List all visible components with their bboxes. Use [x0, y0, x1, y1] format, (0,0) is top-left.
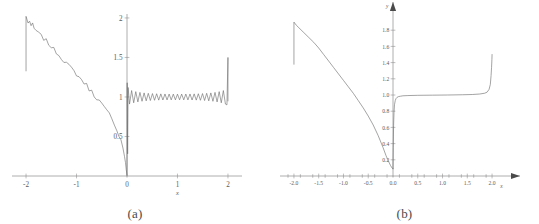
x-tick-label: 0.5 [414, 180, 421, 186]
x-tick-label: 1 [176, 181, 180, 189]
plot-area-a: -2-10120.511.52x [0, 0, 270, 196]
panel-b: -2.0-1.5-1.0-0.50.00.51.01.52.00.20.40.6… [270, 0, 539, 224]
y-axis-arrow-icon [390, 2, 396, 11]
y-tick-label: 1.2 [382, 76, 389, 82]
curve-left-branch [294, 22, 393, 169]
curve-left-branch [26, 16, 127, 175]
x-tick-label: -1 [74, 181, 80, 189]
y-tick-label: 1.5 [114, 54, 123, 62]
y-tick-label: 1 [119, 94, 123, 102]
x-tick-label: -0.5 [364, 180, 373, 186]
chart-b: -2.0-1.5-1.0-0.50.00.51.01.52.00.20.40.6… [270, 0, 539, 196]
y-tick-label: 0.2 [382, 157, 389, 163]
y-tick-label: 0.4 [382, 141, 389, 147]
y-tick-label: 1.0 [382, 92, 389, 98]
y-tick-label: 1.6 [382, 44, 389, 50]
y-tick-label: 1.8 [382, 27, 389, 33]
x-tick-label: 1.5 [464, 180, 471, 186]
x-tick-label: 2 [226, 181, 230, 189]
y-tick-label: 0.8 [382, 108, 389, 114]
y-tick-label: 0.6 [382, 125, 389, 131]
figure-sheet: -2-10120.511.52x (a) -2.0-1.5-1.0-0.50.0… [0, 0, 539, 224]
panel-a: -2-10120.511.52x (a) [0, 0, 270, 224]
x-tick-label: -2.0 [290, 180, 299, 186]
x-tick-label: 2.0 [489, 180, 496, 186]
y-axis-label: y [385, 3, 389, 9]
x-axis-arrow-icon [511, 173, 520, 179]
panel-b-caption: (b) [270, 206, 539, 222]
y-tick-label: 1.4 [382, 60, 389, 66]
x-tick-label: 1.0 [439, 180, 446, 186]
x-tick-label: -1.0 [339, 180, 348, 186]
x-axis-label: x [175, 189, 179, 196]
x-tick-label: -1.5 [314, 180, 323, 186]
curve-right-branch [393, 55, 492, 169]
x-tick-label: -2 [23, 181, 29, 189]
x-axis-label: x [499, 183, 503, 189]
chart-a: -2-10120.511.52x [0, 0, 270, 196]
curve-right-branch [127, 57, 228, 175]
panel-a-caption: (a) [0, 206, 270, 222]
y-tick-label: 2 [119, 15, 123, 23]
x-tick-label: 0 [125, 181, 129, 189]
plot-area-b: -2.0-1.5-1.0-0.50.00.51.01.52.00.20.40.6… [270, 0, 539, 196]
x-tick-label: 0.0 [390, 180, 397, 186]
